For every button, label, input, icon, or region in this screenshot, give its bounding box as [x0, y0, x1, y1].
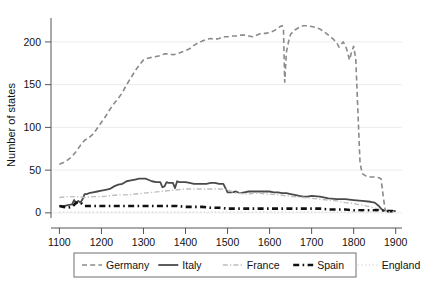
x-tick-label-1900: 1900	[384, 236, 408, 248]
y-axis: 050100150200	[23, 18, 51, 218]
legend-label-spain: Spain	[317, 259, 344, 271]
x-tick-label-1800: 1800	[342, 236, 366, 248]
series-line-spain	[59, 203, 395, 212]
x-tick-label-1300: 1300	[132, 236, 156, 248]
legend-label-england: England	[382, 259, 421, 271]
legend-label-germany: Germany	[106, 259, 150, 271]
series-lines	[59, 26, 395, 212]
y-tick-label-100: 100	[23, 121, 41, 133]
y-tick-label-50: 50	[29, 164, 41, 176]
x-tick-label-1500: 1500	[216, 236, 240, 248]
legend-label-france: France	[247, 259, 280, 271]
x-tick-label-1700: 1700	[300, 236, 324, 248]
y-tick-label-200: 200	[23, 36, 41, 48]
y-axis-label: Number of states	[5, 83, 17, 167]
y-tick-label-0: 0	[35, 206, 41, 218]
gridlines	[51, 42, 402, 213]
chart-figure: 050100150200 110012001300140015001600170…	[0, 0, 429, 295]
series-line-germany	[59, 26, 395, 211]
x-tick-label-1200: 1200	[90, 236, 114, 248]
legend-label-italy: Italy	[182, 259, 202, 271]
x-tick-label-1100: 1100	[48, 236, 71, 248]
y-tick-label-150: 150	[23, 78, 41, 90]
legend: GermanyItalyFranceSpainEngland	[74, 253, 420, 277]
x-tick-label-1600: 1600	[258, 236, 282, 248]
x-axis: 110012001300140015001600170018001900	[48, 228, 407, 248]
x-tick-label-1400: 1400	[174, 236, 198, 248]
